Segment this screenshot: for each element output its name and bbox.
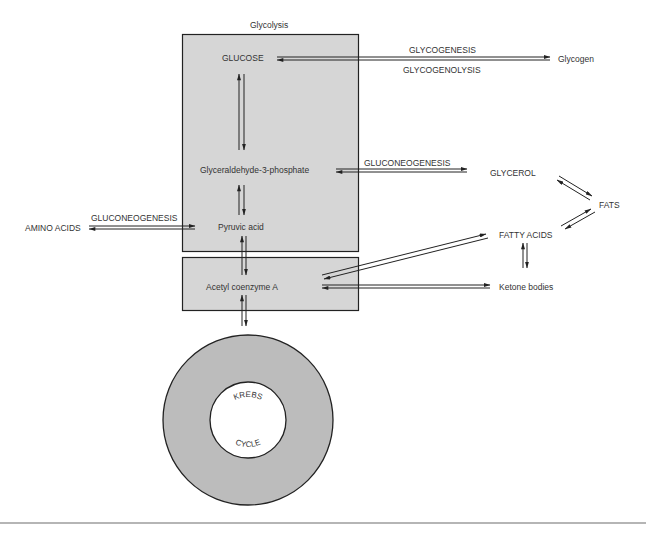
fatty-acids-to-fats-arrow — [561, 209, 591, 226]
node-glycerol: GLYCEROL — [490, 169, 536, 178]
process-glycogenolysis: GLYCOGENOLYSIS — [403, 66, 481, 75]
process-gluconeogenesis-glycerol: GLUCONEOGENESIS — [364, 159, 450, 168]
node-ketone-bodies: Ketone bodies — [499, 283, 553, 292]
node-pyruvic-acid: Pyruvic acid — [218, 223, 264, 232]
node-g3p: Glyceraldehyde-3-phosphate — [200, 166, 309, 175]
glycolysis-title: Glycolysis — [250, 21, 288, 30]
node-fatty-acids: FATTY ACIDS — [499, 231, 553, 240]
metabolism-diagram: KREBS CYCLE — [0, 0, 646, 533]
process-glycogenesis: GLYCOGENESIS — [409, 46, 476, 55]
fats-to-glycerol-arrow — [557, 180, 590, 200]
node-fats: FATS — [599, 201, 620, 210]
process-gluconeogenesis-amino: GLUCONEOGENESIS — [91, 214, 177, 223]
glycerol-to-fats-arrow — [559, 176, 592, 196]
krebs-cycle-ring: KREBS CYCLE — [163, 335, 333, 505]
node-glycogen: Glycogen — [558, 55, 594, 64]
node-amino-acids: AMINO ACIDS — [25, 224, 81, 233]
glycolysis-box — [183, 35, 359, 252]
fats-to-fatty-acids-arrow — [565, 212, 595, 229]
node-acetyl-coa: Acetyl coenzyme A — [206, 283, 278, 292]
node-glucose: GLUCOSE — [222, 54, 264, 63]
bottom-divider — [0, 522, 646, 524]
